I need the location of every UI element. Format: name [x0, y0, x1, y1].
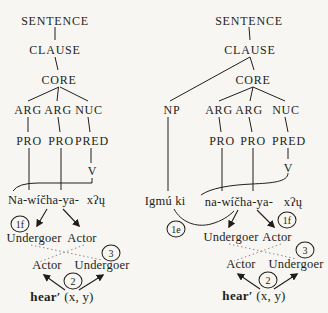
left-node-core: CORE	[41, 73, 76, 88]
right-node-sentence: SENTENCE	[215, 14, 283, 29]
right-ls-predicate: hear	[222, 288, 248, 303]
left-role-undergoer-top: Undergoer	[6, 231, 61, 246]
left-node-clause: CLAUSE	[29, 43, 80, 58]
left-word-verb-root: xʔų	[87, 193, 106, 208]
right-node-pro1: PRO	[209, 134, 235, 149]
right-node-pred: PRED	[272, 134, 306, 149]
left-node-pro2: PRO	[48, 134, 74, 149]
right-word-verb-root: xʔų	[284, 195, 303, 210]
right-node-v: V	[284, 161, 293, 176]
right-node-arg1: ARG	[205, 103, 233, 118]
right-word-np: Igmú ki	[145, 194, 186, 209]
left-node-pred: PRED	[75, 134, 109, 149]
right-step-circle-3: 3	[296, 242, 315, 259]
left-ls-arguments: (x, y)	[64, 289, 93, 304]
left-step-circle-3: 3	[102, 245, 121, 262]
right-node-pro2: PRO	[240, 134, 266, 149]
left-node-v: V	[88, 164, 97, 179]
linking-diagram-figure: SENTENCE CLAUSE CORE ARG ARG NUC PRO PRO…	[0, 0, 328, 313]
left-node-pro1: PRO	[16, 134, 42, 149]
left-role-actor-bottom: Actor	[32, 258, 61, 273]
right-node-clause: CLAUSE	[224, 43, 275, 58]
right-step-circle-1e: 1e	[167, 221, 186, 238]
left-role-undergoer-bottom: Undergoer	[74, 258, 129, 273]
right-logical-structure: hear′ (x, y)	[222, 288, 285, 304]
left-ls-predicate: hear	[30, 289, 56, 304]
right-ls-prime: ′	[249, 288, 253, 303]
left-step-circle-2: 2	[64, 273, 83, 290]
right-node-np: NP	[164, 103, 181, 118]
right-verb-elbow-line	[201, 173, 288, 195]
right-word-prefix-complex: na-wíčha-ya-	[205, 195, 273, 210]
left-ls-prime: ′	[57, 289, 61, 304]
left-node-arg2: ARG	[44, 103, 72, 118]
right-step-circle-1f: 1f	[278, 212, 297, 229]
left-verb-elbow-line	[13, 178, 92, 191]
right-step-circle-2: 2	[259, 272, 278, 289]
left-word-prefix-complex: Na-wíčha-ya-	[8, 193, 79, 208]
left-node-arg1: ARG	[14, 103, 42, 118]
left-node-nuc: NUC	[75, 103, 103, 118]
left-node-sentence: SENTENCE	[21, 14, 89, 29]
right-role-undergoer-top: Undergoer	[203, 230, 258, 245]
right-ls-arguments: (x, y)	[256, 288, 285, 303]
right-node-core: CORE	[235, 73, 270, 88]
right-role-undergoer-bottom: Undergoer	[268, 257, 323, 272]
right-node-arg2: ARG	[235, 103, 263, 118]
left-role-actor-top: Actor	[67, 231, 96, 246]
right-role-actor-top: Actor	[262, 230, 291, 245]
right-node-nuc: NUC	[272, 103, 300, 118]
left-logical-structure: hear′ (x, y)	[30, 289, 93, 305]
right-role-actor-bottom: Actor	[226, 257, 255, 272]
left-step-circle-1f: 1f	[11, 216, 30, 233]
